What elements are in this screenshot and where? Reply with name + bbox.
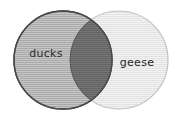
venn-diagram-canvas [0,0,183,120]
venn-diagram: ducks geese [0,0,183,120]
